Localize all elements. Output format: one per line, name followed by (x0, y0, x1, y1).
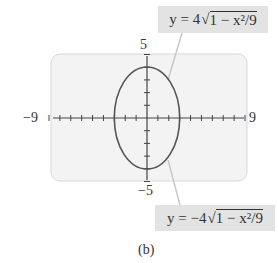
top-equation-prefix: y = 4 (169, 11, 200, 28)
x-min-label: −9 (23, 110, 38, 126)
y-min-label: −5 (138, 183, 153, 199)
top-equation-label: y = 4 √ 1 − x²/9 (158, 6, 268, 33)
figure-caption: (b) (138, 242, 154, 258)
bottom-equation-prefix: y = −4 (167, 210, 206, 227)
bottom-equation-radicand: 1 − x²/9 (216, 209, 263, 227)
x-max-label: 9 (249, 110, 256, 126)
bottom-equation-label: y = −4 √ 1 − x²/9 (155, 205, 275, 231)
y-max-label: 5 (140, 37, 147, 53)
top-equation-radicand: 1 − x²/9 (210, 11, 257, 29)
sqrt-symbol: √ (201, 11, 209, 28)
sqrt-symbol: √ (208, 210, 216, 227)
